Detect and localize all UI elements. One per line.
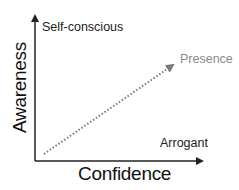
presence-label: Presence bbox=[180, 52, 233, 66]
x-axis-title: Confidence bbox=[78, 163, 171, 185]
y-axis-title: Awareness bbox=[9, 42, 31, 133]
arrogant-label: Arrogant bbox=[160, 136, 208, 150]
self-conscious-label: Self-conscious bbox=[42, 20, 123, 34]
presence-dotted-arrow bbox=[44, 65, 173, 154]
